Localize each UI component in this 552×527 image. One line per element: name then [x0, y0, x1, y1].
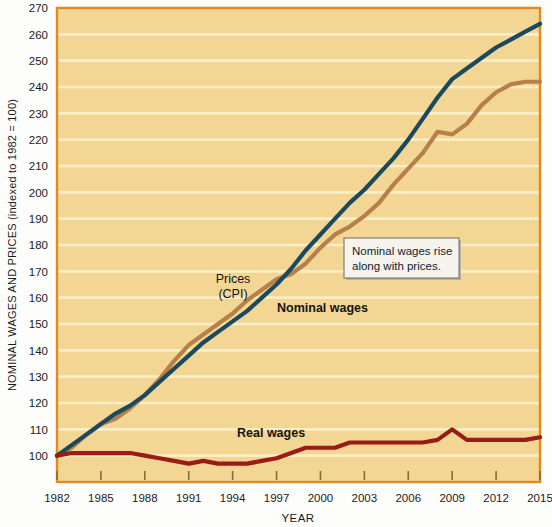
y-tick-label: 150 [29, 318, 48, 330]
annotation-nominal-wages-note: Nominal wages risealong with prices. [344, 238, 461, 280]
y-tick-label: 180 [29, 239, 48, 251]
chart-figure: 1001101201301401501601701801902002102202… [0, 0, 552, 527]
annotation-line-2: along with prices. [352, 260, 441, 272]
y-tick-label: 260 [29, 29, 48, 41]
x-tick-label: 1982 [44, 492, 70, 504]
x-tick-label: 1997 [264, 492, 290, 504]
x-tick-label: 1985 [88, 492, 114, 504]
y-tick-label: 120 [29, 397, 48, 409]
x-tick-label: 2015 [527, 492, 552, 504]
annotation-box [344, 238, 459, 278]
x-axis-title: YEAR [282, 512, 315, 524]
y-axis-title: NOMINAL WAGES AND PRICES (indexed to 198… [6, 99, 18, 391]
y-tick-label: 140 [29, 345, 48, 357]
x-tick-label: 2000 [308, 492, 334, 504]
series-label-prices: Prices [216, 272, 251, 286]
x-tick-label: 2006 [395, 492, 421, 504]
y-tick-label: 110 [30, 424, 48, 436]
y-tick-label: 200 [29, 187, 48, 199]
y-tick-label: 130 [29, 371, 48, 383]
x-tick-label: 1994 [220, 492, 246, 504]
series-label-nominal-wages: Nominal wages [277, 301, 368, 315]
x-tick-label: 2003 [352, 492, 378, 504]
y-tick-label: 210 [29, 160, 48, 172]
series-label-prices-cpi: (CPI) [218, 287, 247, 301]
y-tick-label: 240 [29, 81, 48, 93]
y-tick-label: 250 [29, 55, 48, 67]
y-tick-label: 270 [29, 2, 48, 14]
x-tick-label: 2009 [439, 492, 465, 504]
y-tick-label: 230 [29, 108, 48, 120]
x-tick-label: 1988 [132, 492, 158, 504]
series-label-real-wages: Real wages [237, 426, 305, 440]
annotation-line-1: Nominal wages rise [352, 245, 452, 257]
y-tick-label: 190 [29, 213, 48, 225]
x-tick-label: 2012 [483, 492, 509, 504]
x-tick-label: 1991 [176, 492, 202, 504]
chart-svg: 1001101201301401501601701801902002102202… [0, 0, 552, 527]
y-tick-label: 160 [29, 292, 48, 304]
y-tick-labels: 1001101201301401501601701801902002102202… [29, 2, 48, 462]
y-tick-label: 100 [29, 450, 48, 462]
y-tick-label: 220 [29, 134, 48, 146]
y-tick-label: 170 [29, 266, 48, 278]
